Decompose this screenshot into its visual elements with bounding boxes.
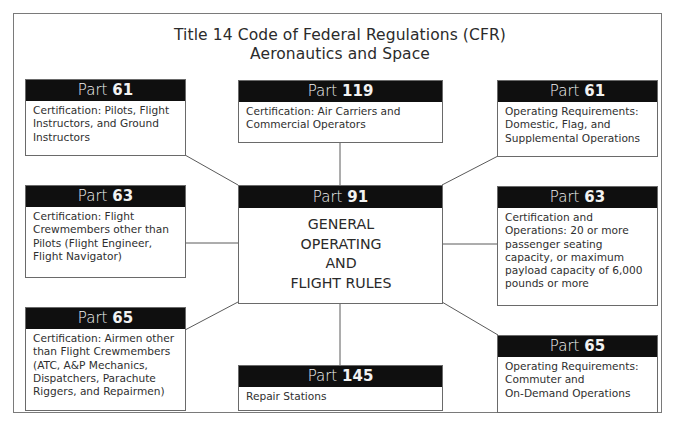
box-header: Part 145	[239, 366, 442, 387]
box-part-145-repair-stations: Part 145 Repair Stations	[238, 365, 443, 411]
box-header: Part 61	[498, 81, 657, 102]
box-header: Part 61	[26, 80, 185, 101]
box-description: GENERAL OPERATING AND FLIGHT RULES	[239, 208, 442, 297]
connector-left-bot	[185, 302, 238, 330]
box-part-91-general-operating-rules: Part 91 GENERAL OPERATING AND FLIGHT RUL…	[238, 185, 443, 304]
box-part-63-flight-crewmembers: Part 63 Certification: Flight Crewmember…	[25, 185, 186, 278]
box-description: Certification: Air Carriers and Commerci…	[239, 102, 442, 136]
box-description: Certification and Operations: 20 or more…	[498, 208, 657, 295]
box-description: Operating Requirements: Commuter and On-…	[498, 357, 657, 404]
box-part-125-large-aircraft: Part 63 Certification and Operations: 20…	[497, 186, 658, 306]
box-part-119-air-carriers: Part 119 Certification: Air Carriers and…	[238, 80, 443, 143]
box-header: Part 91	[239, 186, 442, 208]
box-header: Part 63	[498, 187, 657, 208]
box-part-61-pilots: Part 61 Certification: Pilots, Flight In…	[25, 79, 186, 156]
box-description: Certification: Flight Crewmembers other …	[26, 207, 185, 267]
connector-left-top	[185, 155, 238, 185]
box-part-65-airmen: Part 65 Certification: Airmen other than…	[25, 307, 186, 411]
box-description: Operating Requirements: Domestic, Flag, …	[498, 102, 657, 149]
box-header: Part 63	[26, 186, 185, 207]
connector-right-bot	[442, 302, 498, 335]
box-description: Repair Stations	[239, 387, 442, 407]
box-description: Certification: Pilots, Flight Instructor…	[26, 101, 185, 148]
box-part-121-domestic-flag-supplemental: Part 61 Operating Requirements: Domestic…	[497, 80, 658, 157]
box-part-135-commuter-on-demand: Part 65 Operating Requirements: Commuter…	[497, 335, 658, 413]
box-description: Certification: Airmen other than Flight …	[26, 329, 185, 402]
connector-right-top	[442, 156, 498, 185]
box-header: Part 65	[498, 336, 657, 357]
box-header: Part 119	[239, 81, 442, 102]
box-header: Part 65	[26, 308, 185, 329]
